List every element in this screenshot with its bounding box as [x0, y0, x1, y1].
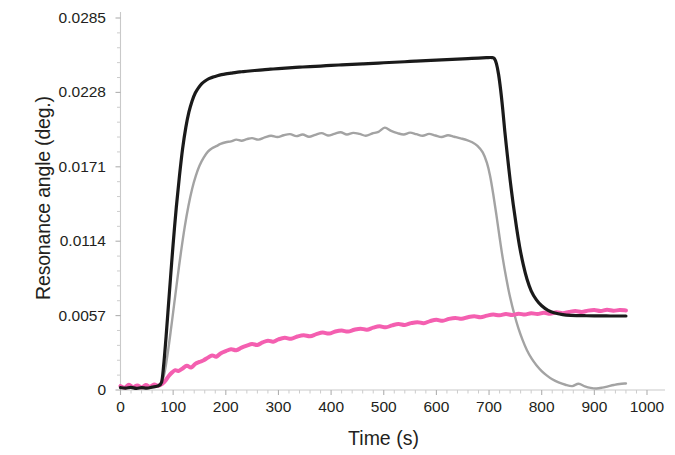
series-pink-curve: [121, 310, 626, 388]
plot-area: [0, 0, 675, 455]
series-black-curve: [121, 58, 626, 389]
series-grey-curve: [121, 128, 626, 389]
chart-canvas: [0, 0, 675, 455]
chart-figure: Resonance angle (deg.) Time (s) 00.00570…: [0, 0, 675, 455]
